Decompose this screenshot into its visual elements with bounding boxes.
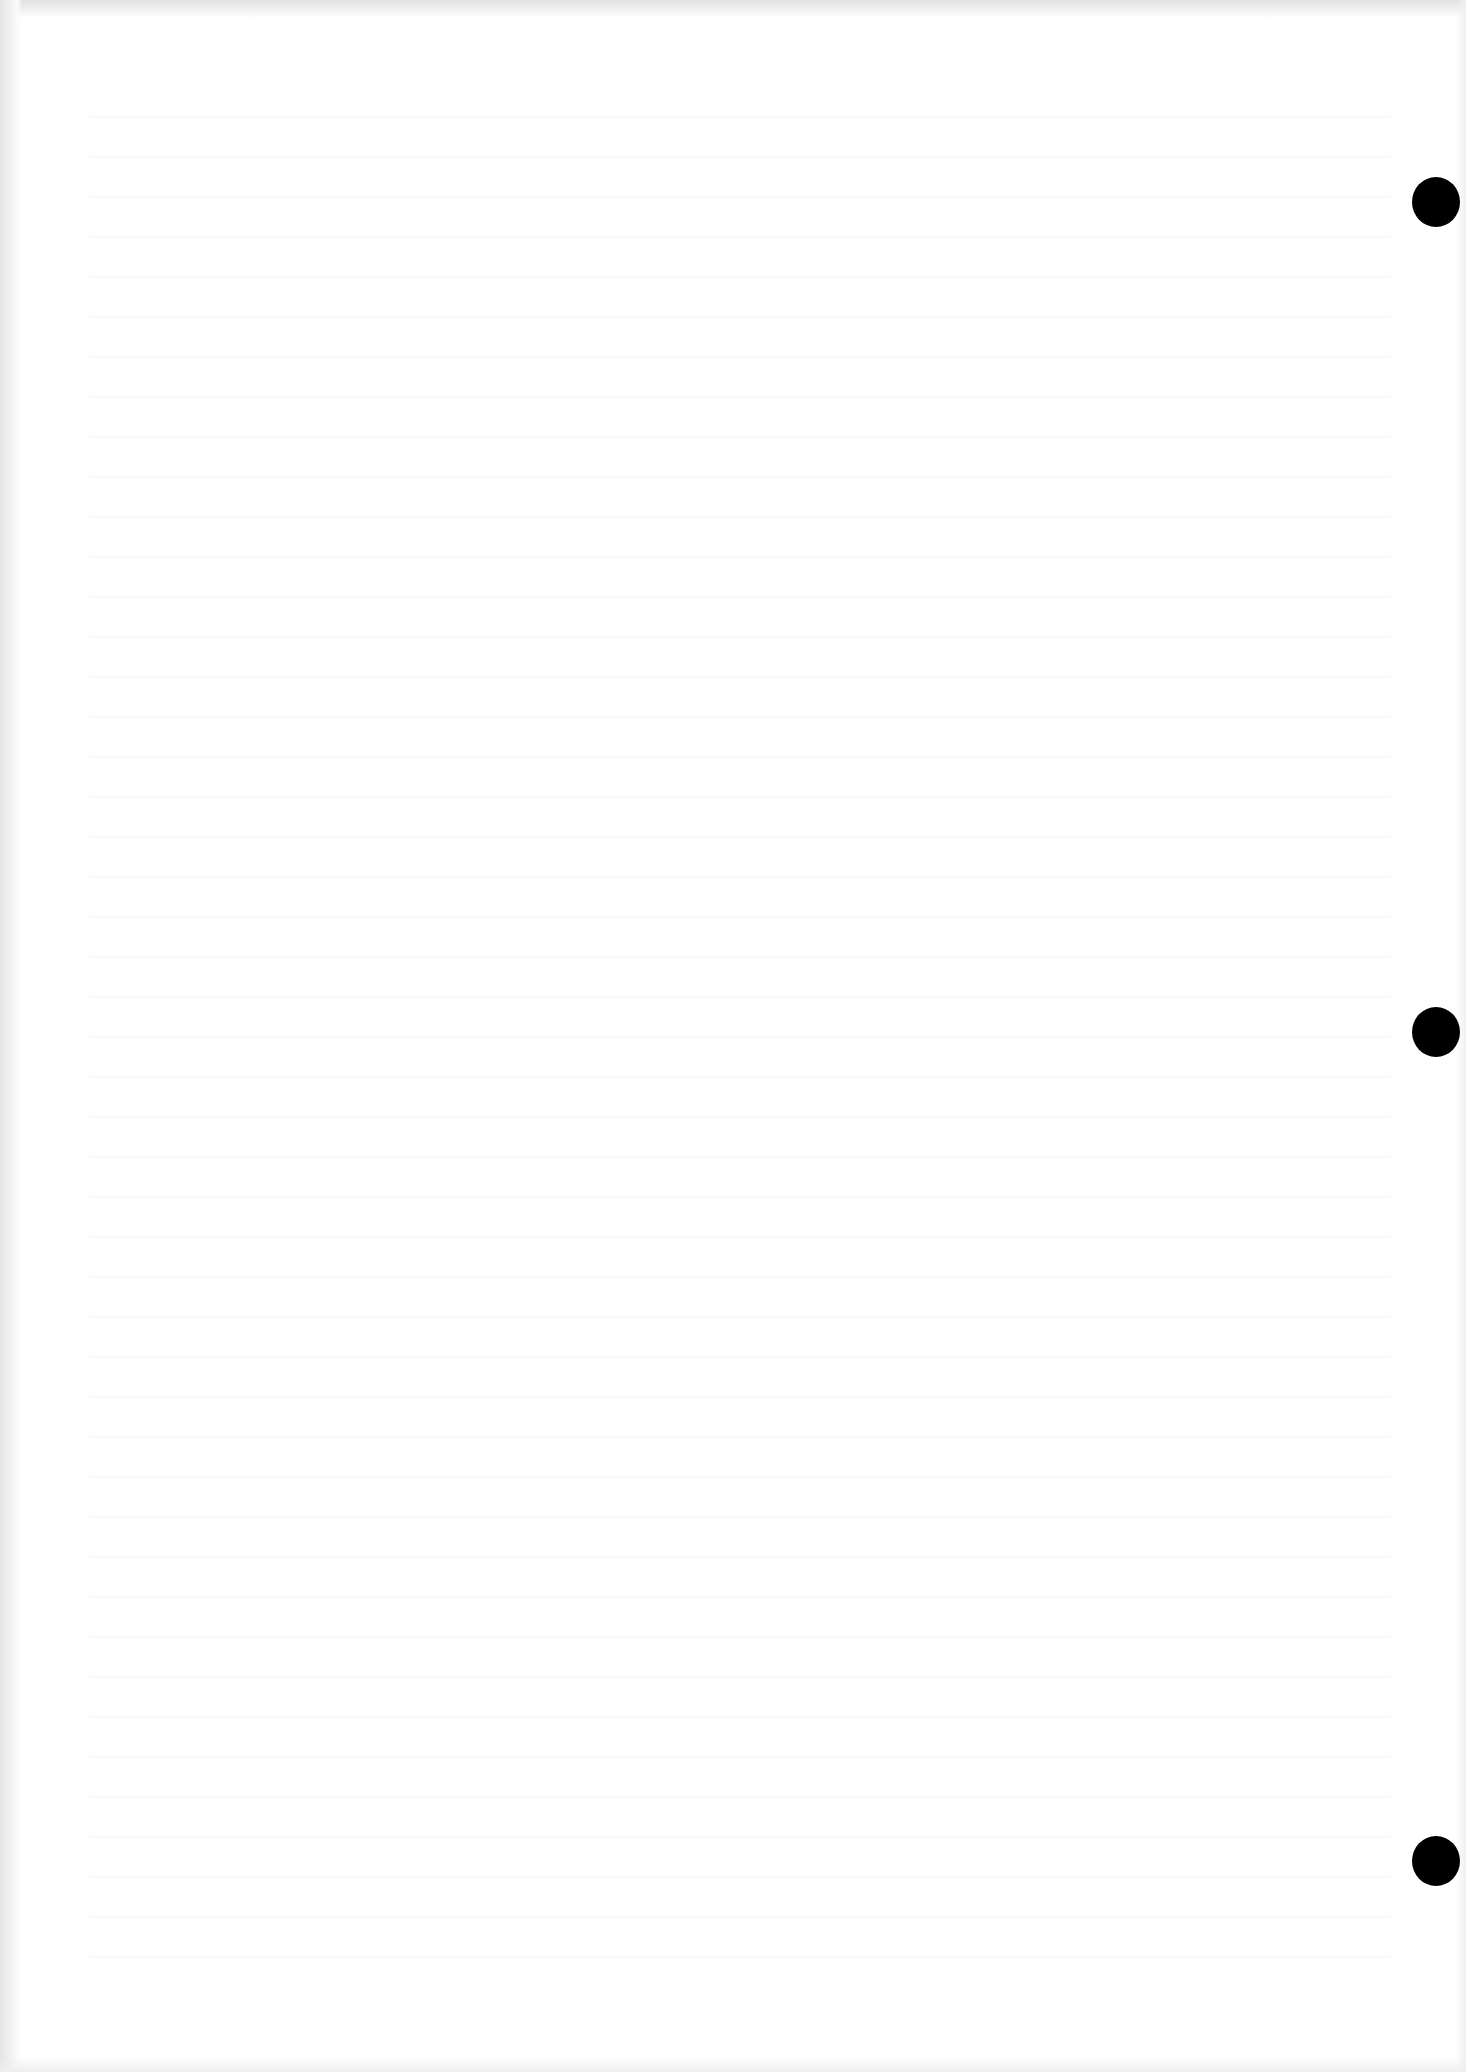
- scanned-page: [0, 0, 1466, 2072]
- punch-hole-middle: [1412, 1007, 1460, 1057]
- scan-shadow-left: [0, 0, 22, 2072]
- punch-hole-bottom: [1412, 1836, 1460, 1886]
- scan-shadow-bottom: [0, 2058, 1466, 2072]
- reverse-side-show-through: [90, 90, 1390, 1970]
- punch-hole-top: [1412, 177, 1460, 227]
- scan-shadow-top: [0, 0, 1466, 18]
